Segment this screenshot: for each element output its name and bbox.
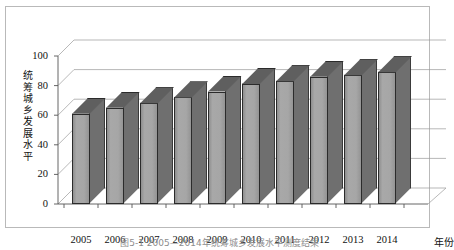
figure-caption: 图5-1 2005—2014年统筹城乡发展水平测度结果	[0, 236, 439, 249]
depth-connector-80	[58, 70, 74, 86]
bar-2014	[378, 56, 396, 204]
y-axis-tick-label: 100	[22, 51, 48, 62]
y-axis-tick-label: 60	[22, 110, 48, 121]
y-axis-tick-label: 80	[22, 81, 48, 92]
bar-2009	[208, 76, 226, 204]
bar-side-face	[361, 59, 377, 204]
y-axis-tick-label: 40	[22, 140, 48, 151]
bar-front-face	[174, 97, 192, 204]
y-axis-tick-label: 20	[22, 169, 48, 180]
bar-front-face	[140, 103, 158, 204]
y-axis-title-char: 平	[20, 151, 36, 163]
bar-2007	[140, 87, 158, 204]
bar-2012	[310, 61, 328, 204]
floor-right-edge	[428, 188, 446, 204]
bar-front-face	[106, 108, 124, 204]
bar-side-face	[191, 81, 207, 204]
bar-front-face	[344, 75, 362, 204]
bar-side-face	[293, 65, 309, 204]
bar-front-face	[208, 92, 226, 204]
bar-side-face	[327, 61, 343, 204]
bar-2010	[242, 68, 260, 204]
y-axis-title-char: 展	[20, 128, 36, 140]
bar-front-face	[378, 72, 396, 204]
bar-2006	[106, 92, 124, 204]
bar-side-face	[89, 98, 105, 204]
y-axis-title-char: 城	[20, 93, 36, 105]
bar-2011	[276, 65, 294, 204]
bar-side-face	[225, 76, 241, 204]
bar-2005	[72, 98, 90, 204]
bar-front-face	[276, 81, 294, 204]
bar-front-face	[310, 77, 328, 204]
bar-2008	[174, 81, 192, 204]
bar-side-face	[123, 92, 139, 204]
bar-side-face	[395, 56, 411, 204]
bar-front-face	[242, 84, 260, 204]
plot-area: 020406080100 200520062007200820092010201…	[58, 56, 420, 204]
bar-side-face	[157, 87, 173, 204]
y-axis-tick-label: 0	[22, 199, 48, 210]
bar-front-face	[72, 114, 90, 204]
bar-side-face	[259, 68, 275, 204]
bar-2013	[344, 59, 362, 204]
